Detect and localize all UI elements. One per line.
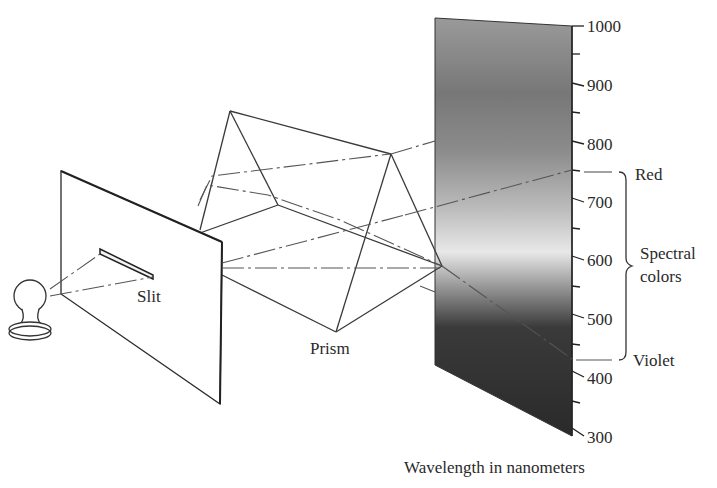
tick-label-1000: 1000: [587, 17, 621, 36]
spectral-label-line2: colors: [640, 267, 682, 286]
tick-label-300: 300: [587, 428, 613, 447]
spectral-bracket: [619, 172, 632, 360]
spectral-label-line1: Spectral: [640, 244, 696, 263]
tick-label-900: 900: [587, 76, 613, 95]
red-label: Red: [635, 165, 663, 184]
slit-label: Slit: [137, 287, 161, 306]
tick-label-700: 700: [587, 193, 613, 212]
light-bulb-icon: [9, 280, 51, 340]
prism: [200, 111, 442, 332]
axis-title: Wavelength in nanometers: [404, 458, 585, 477]
wavelength-axis: [572, 26, 584, 436]
spectroscope-diagram: Slit Prism Red Spectral colors Violet Wa…: [0, 0, 717, 488]
tick-label-400: 400: [587, 369, 613, 388]
violet-label: Violet: [633, 351, 675, 370]
prism-label: Prism: [310, 339, 350, 358]
tick-label-600: 600: [587, 251, 613, 270]
tick-label-800: 800: [587, 135, 613, 154]
tick-label-500: 500: [587, 310, 613, 329]
spectrum-screen: [435, 18, 572, 436]
